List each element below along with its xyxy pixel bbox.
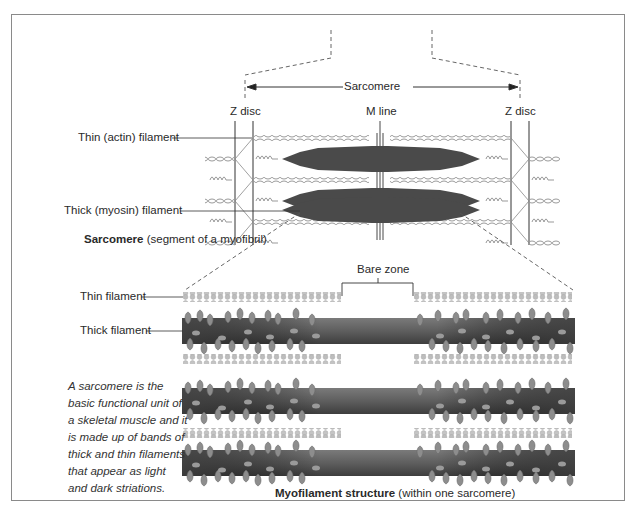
thin-filament-label: Thin filament bbox=[80, 290, 146, 302]
sarcomere-note: A sarcomere is the basic functional unit… bbox=[68, 378, 188, 497]
myosin-rows bbox=[256, 146, 508, 243]
sarcomere-caption: Sarcomere (segment of a myofibril) bbox=[84, 233, 267, 245]
bare-zone-label: Bare zone bbox=[357, 263, 409, 275]
myofilament-caption-bold: Myofilament structure bbox=[275, 487, 395, 499]
thick-filament-label: Thick filament bbox=[80, 324, 151, 336]
thin-actin-filament-label: Thin (actin) filament bbox=[78, 131, 179, 143]
bare-zone-bracket bbox=[342, 278, 413, 296]
sarcomere-span-label: Sarcomere bbox=[344, 80, 400, 92]
m-line-label: M line bbox=[366, 105, 397, 117]
sarcomere-caption-bold: Sarcomere bbox=[84, 233, 143, 245]
sarcomere-caption-rest: (segment of a myofibril) bbox=[143, 233, 266, 245]
z-disc-left-label: Z disc bbox=[230, 105, 261, 117]
thick-myosin-filament-label: Thick (myosin) filament bbox=[64, 204, 182, 216]
myofilament-caption-rest: (within one sarcomere) bbox=[395, 487, 515, 499]
z-disc-right-label: Z disc bbox=[505, 105, 536, 117]
myofilament-caption: Myofilament structure (within one sarcom… bbox=[275, 487, 515, 499]
